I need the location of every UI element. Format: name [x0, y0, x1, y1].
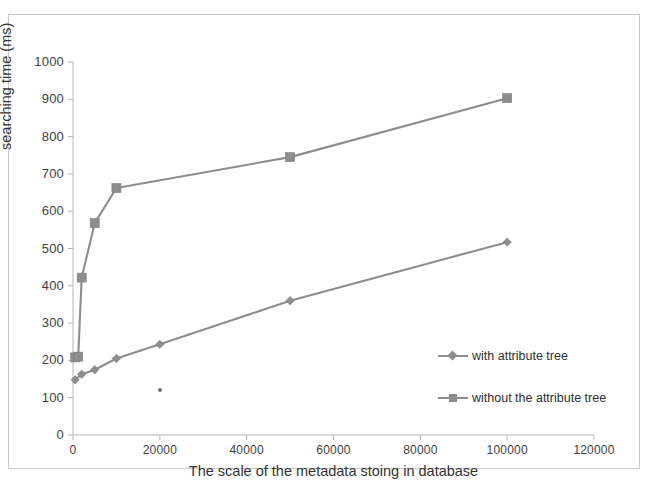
chart-legend: with attribute tree without the attribut… [438, 348, 628, 432]
y-tick-label: 600 [20, 203, 64, 218]
legend-item-with-attribute-tree: with attribute tree [438, 348, 628, 364]
data-point-marker [74, 352, 83, 361]
y-tick-label: 800 [20, 129, 64, 144]
x-tick-label: 100000 [462, 443, 552, 457]
x-tick-label: 40000 [202, 443, 292, 457]
y-tick-label: 200 [20, 352, 64, 367]
data-point-marker [90, 219, 99, 228]
x-axis-title: The scale of the metadata stoing in data… [73, 463, 594, 479]
data-point-marker [503, 238, 511, 246]
x-tick-label: 0 [28, 443, 118, 457]
x-tick-label: 80000 [375, 443, 465, 457]
x-tick-label: 60000 [289, 443, 379, 457]
x-tick-label: 20000 [115, 443, 205, 457]
square-marker-icon [438, 391, 468, 405]
y-tick-label: 0 [20, 427, 64, 442]
stray-speck [158, 388, 162, 392]
series-line-1 [75, 98, 507, 357]
y-tick-label: 100 [20, 390, 64, 405]
data-point-marker [286, 153, 295, 162]
legend-label-1: without the attribute tree [472, 391, 606, 405]
y-tick-label: 1000 [20, 54, 64, 69]
y-tick-label: 300 [20, 315, 64, 330]
data-point-marker [156, 340, 164, 348]
y-tick-label: 400 [20, 278, 64, 293]
data-series-group [71, 94, 512, 384]
data-point-marker [112, 354, 120, 362]
y-axis-title: searching time (ms) [0, 0, 14, 150]
diamond-marker-icon [438, 349, 468, 363]
y-tick-label: 900 [20, 91, 64, 106]
data-point-marker [286, 297, 294, 305]
data-point-marker [112, 184, 121, 193]
legend-label-0: with attribute tree [472, 349, 568, 363]
legend-item-without-the-attribute-tree: without the attribute tree [438, 390, 628, 406]
data-point-marker [503, 94, 512, 103]
y-tick-label: 700 [20, 166, 64, 181]
data-point-marker [91, 366, 99, 374]
x-tick-label: 120000 [549, 443, 639, 457]
chart-figure: searching time (ms) The scale of the met… [0, 0, 653, 500]
y-tick-label: 500 [20, 241, 64, 256]
data-point-marker [77, 273, 86, 282]
